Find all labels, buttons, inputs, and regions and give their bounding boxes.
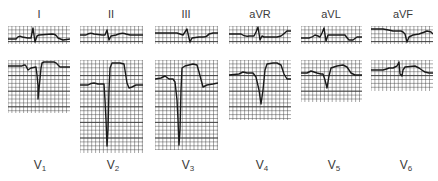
ecg-panel-III (155, 26, 218, 44)
ecg-figure: IIIIIIaVRaVLaVFV1V2V3V4V5V6 (0, 0, 438, 181)
lead-label-letter: V (328, 158, 336, 172)
lead-label-aVL: aVL (311, 8, 351, 20)
ecg-grid (80, 26, 143, 44)
lead-label-subscript: 1 (42, 164, 46, 173)
lead-label-aVF: aVF (383, 8, 423, 20)
ecg-grid (229, 26, 291, 44)
ecg-trace-III (155, 29, 218, 42)
lead-label-V4: V4 (242, 158, 282, 176)
lead-label-V6: V6 (386, 158, 426, 176)
ecg-grid (8, 60, 70, 113)
ecg-grid (80, 60, 143, 153)
ecg-panel-aVR (229, 26, 291, 44)
ecg-panel-aVF (371, 26, 433, 44)
ecg-grid (8, 26, 70, 44)
ecg-panel-V4 (229, 60, 291, 120)
ecg-grid (155, 26, 218, 44)
ecg-panel-V3 (155, 60, 218, 150)
lead-label-subscript: 2 (115, 164, 119, 173)
ecg-panel-II (80, 26, 143, 44)
ecg-panel-V6 (371, 60, 433, 91)
ecg-grid (371, 60, 433, 91)
lead-label-subscript: 5 (336, 164, 340, 173)
lead-label-V5: V5 (314, 158, 354, 176)
lead-label-letter: V (400, 158, 408, 172)
lead-label-II: II (91, 8, 131, 20)
lead-label-letter: V (34, 158, 42, 172)
ecg-trace-II (80, 30, 143, 40)
ecg-trace-V3 (155, 64, 218, 145)
lead-label-V1: V1 (20, 158, 60, 176)
ecg-panel-V2 (80, 60, 143, 153)
ecg-panel-I (8, 26, 70, 44)
lead-label-letter: V (182, 158, 190, 172)
ecg-grid (229, 60, 291, 120)
ecg-panel-aVL (301, 26, 362, 44)
lead-label-III: III (166, 8, 206, 20)
lead-label-letter: V (107, 158, 115, 172)
ecg-grid (155, 60, 218, 150)
ecg-grid (371, 26, 433, 44)
lead-label-letter: V (256, 158, 264, 172)
lead-label-subscript: 4 (264, 164, 268, 173)
ecg-trace-V5 (301, 65, 362, 88)
lead-label-subscript: 6 (408, 164, 412, 173)
ecg-grid (301, 60, 362, 102)
lead-label-subscript: 3 (190, 164, 194, 173)
lead-label-I: I (19, 8, 59, 20)
lead-label-aVR: aVR (240, 8, 280, 20)
lead-label-V3: V3 (168, 158, 208, 176)
lead-label-V2: V2 (93, 158, 133, 176)
ecg-panel-V1 (8, 60, 70, 113)
ecg-grid (301, 26, 362, 44)
ecg-panel-V5 (301, 60, 362, 102)
